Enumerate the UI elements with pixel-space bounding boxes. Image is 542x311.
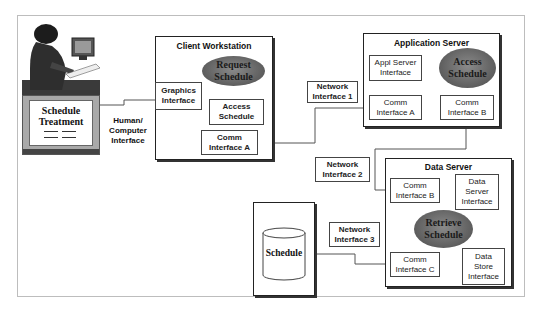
screen-lines-icon: [44, 131, 80, 141]
user-station: Schedule Treatment: [22, 20, 102, 156]
request-schedule-process: Request Schedule: [202, 56, 265, 86]
app-comm-interface-a-node: Comm Interface A: [369, 95, 422, 120]
screen-title: Schedule Treatment: [30, 105, 92, 127]
network-3-link: [315, 254, 390, 264]
network-interface-2-label: Network Interface 2: [315, 157, 370, 182]
person-at-computer-icon: [22, 20, 102, 100]
monitor-base: [23, 149, 99, 154]
client-access-schedule-node: Access Schedule: [209, 99, 264, 125]
client-comm-interface-a-node: Comm Interface A: [201, 130, 258, 155]
access-schedule-process: Access Schedule: [439, 48, 496, 88]
human-computer-link: [100, 100, 155, 105]
monitor: Schedule Treatment: [22, 95, 100, 155]
data-server-interface-node: Data Server Interface: [455, 174, 499, 210]
network-1-link: [258, 108, 369, 143]
app-comm-interface-b-node: Comm Interface B: [440, 95, 494, 120]
comm-interface-c-node: Comm Interface C: [390, 252, 440, 277]
data-server-title: Data Server: [386, 162, 511, 172]
application-server-title: Application Server: [364, 38, 499, 48]
appl-server-interface-node: Appl Server Interface: [369, 55, 422, 81]
network-interface-3-label: Network Interface 3: [329, 222, 380, 247]
retrieve-schedule-process: Retrieve Schedule: [414, 210, 473, 248]
data-comm-interface-b-node: Comm Interface B: [390, 178, 440, 203]
human-computer-interface-label: Human/ Computer Interface: [104, 116, 152, 146]
network-interface-1-label: Network Interface 1: [307, 81, 358, 103]
monitor-screen: Schedule Treatment: [29, 100, 93, 146]
graphics-interface-node: Graphics Interface: [155, 82, 202, 110]
database-label: Schedule: [263, 248, 305, 258]
client-workstation-title: Client Workstation: [156, 41, 272, 51]
data-store-interface-node: Data Store Interface: [462, 248, 505, 285]
